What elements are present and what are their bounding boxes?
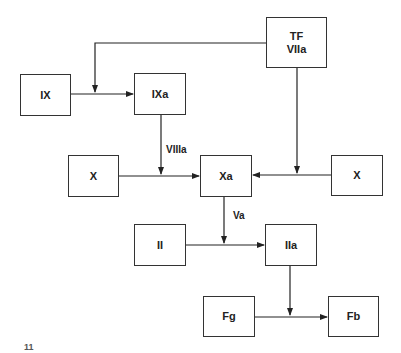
node-label: VIIa [287, 43, 307, 56]
node-iia: IIa [265, 224, 317, 266]
node-fb: Fb [328, 296, 379, 337]
node-label: TF [290, 30, 303, 43]
node-fg: Fg [203, 296, 255, 337]
node-x-right: X [331, 155, 383, 196]
node-label: X [353, 169, 360, 182]
node-xa: Xa [200, 155, 252, 197]
node-label: IIa [285, 239, 297, 252]
edge-label-viiia: VIIIa [166, 144, 187, 155]
node-label: IX [40, 89, 50, 102]
node-label: II [157, 239, 163, 252]
node-ii: II [134, 224, 186, 266]
caption-fragment: 11 [24, 342, 34, 352]
node-ix: IX [20, 74, 71, 116]
node-label: Fb [347, 310, 360, 323]
node-x-left: X [68, 155, 119, 197]
node-label: IXa [152, 88, 169, 101]
node-tf-viia: TF VIIa [266, 17, 327, 68]
node-label: X [90, 170, 97, 183]
node-label: Fg [222, 310, 235, 323]
edge-label-va: Va [233, 210, 245, 221]
node-ixa: IXa [134, 73, 186, 115]
node-label: Xa [219, 170, 232, 183]
